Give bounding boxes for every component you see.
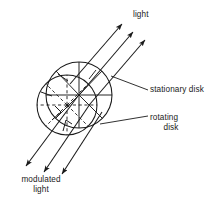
leader-line-rotating <box>100 116 148 124</box>
stationary-disk <box>46 62 112 128</box>
rotating-spoke-2 <box>67 84 88 105</box>
label-rotating-line2: disk <box>150 123 192 133</box>
label-stationary-disk: stationary disk <box>150 85 204 95</box>
label-modulated-line1: modulated <box>6 175 76 185</box>
label-modulated-line2: light <box>6 185 76 195</box>
label-rotating-disk: rotatingdisk <box>150 113 192 133</box>
leader-line-stationary <box>111 76 148 90</box>
stationary-blade-a <box>89 70 96 79</box>
outgoing-beam-2 <box>44 104 90 172</box>
label-modulated-light: modulated light <box>6 175 76 195</box>
figure-canvas: light stationary disk rotatingdisk modul… <box>0 0 224 203</box>
label-light: light <box>133 10 149 20</box>
chopper-diagram <box>0 0 224 203</box>
stationary-spoke-2 <box>79 71 102 95</box>
label-rotating-line1: rotating <box>150 113 192 123</box>
stationary-spoke-6 <box>56 95 79 118</box>
